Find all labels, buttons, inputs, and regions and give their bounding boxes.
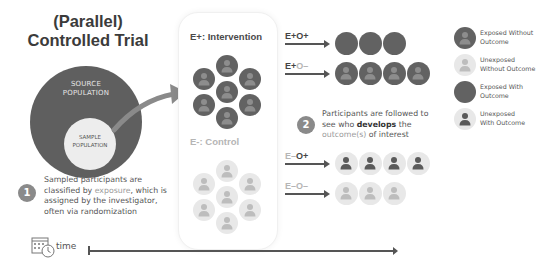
legend-label-0: Exposed WithoutOutcome [480, 29, 533, 46]
row-arrow-line [285, 163, 325, 165]
diagram-title: (Parallel) Controlled Trial [0, 12, 176, 50]
person-icon [198, 72, 210, 86]
participant-unexposed [216, 186, 238, 208]
arrowhead-icon [324, 160, 330, 168]
person-icon [244, 98, 256, 112]
timeline-arrowhead-icon [393, 247, 398, 255]
legend-line1: Exposed With [480, 83, 523, 92]
step2-outcome-highlight: outcome(s) [322, 130, 366, 139]
row-label-1: E+O– [285, 61, 308, 71]
title-line2: Controlled Trial [0, 31, 176, 50]
participant-exposed-with-outcome [383, 32, 406, 55]
person-icon [459, 112, 471, 126]
participant-unexposed-without-outcome [383, 182, 406, 205]
row-label-3: E–O– [285, 181, 308, 191]
timeline-line [89, 250, 394, 252]
exposure-code: E– [285, 181, 296, 191]
participant-unexposed [193, 173, 215, 195]
exposure-code: E– [285, 151, 296, 161]
participant-exposed-without-outcome [359, 62, 382, 85]
control-group-title: E-: Control [190, 136, 239, 147]
participant-unexposed-with-outcome [335, 152, 358, 175]
person-icon [340, 186, 352, 200]
outcome-code: O– [296, 181, 308, 191]
legend-swatch-3 [454, 108, 476, 130]
participant-unexposed [239, 199, 261, 221]
person-icon [221, 216, 233, 230]
row-label-0: E+O+ [285, 31, 309, 41]
person-icon [221, 190, 233, 204]
participant-exposed-without-outcome [407, 62, 430, 85]
participant-exposed-without-outcome [383, 62, 406, 85]
exposure-code: E+ [285, 61, 296, 71]
legend-line2: Outcome [480, 38, 533, 47]
person-icon [221, 164, 233, 178]
person-icon [198, 98, 210, 112]
control-prefix: E-: [190, 136, 203, 147]
legend-line2: Outcome [480, 92, 523, 101]
participant-unexposed [193, 199, 215, 221]
arrowhead-icon [324, 40, 330, 48]
legend-line1: Unexposed [480, 110, 525, 119]
participant-exposed [216, 81, 238, 103]
legend-line1: Exposed Without [480, 29, 533, 38]
step2-text-b: the [396, 120, 411, 129]
step2-text-c: of interest [366, 130, 408, 139]
sample-label-line2: POPULATION [64, 141, 116, 149]
exposure-code: E+ [285, 31, 296, 41]
step-2-badge: 2 [297, 116, 315, 134]
legend-label-3: UnexposedWith Outcome [480, 110, 525, 127]
legend-swatch-0 [454, 27, 476, 49]
person-icon [221, 111, 233, 125]
sample-label-line1: SAMPLE [64, 133, 116, 141]
person-icon [459, 31, 471, 45]
step-1-text: Sampled participants are classified by e… [44, 175, 170, 217]
legend-label-1: UnexposedWithout Outcome [480, 56, 535, 73]
person-icon [244, 72, 256, 86]
row-arrow-line [285, 193, 325, 195]
person-icon [388, 186, 400, 200]
participant-exposed [216, 55, 238, 77]
control-label: Control [203, 136, 239, 147]
outcome-code: O– [296, 61, 308, 71]
step1-exposure-highlight: exposure [95, 186, 131, 195]
participant-unexposed-with-outcome [407, 152, 430, 175]
legend-label-2: Exposed WithOutcome [480, 83, 523, 100]
step-2-text: Participants are followed to see who dev… [322, 109, 432, 141]
arrowhead-icon [324, 70, 330, 78]
participant-unexposed-with-outcome [359, 152, 382, 175]
sample-population-label: SAMPLE POPULATION [64, 133, 116, 149]
person-icon [412, 156, 424, 170]
step-1-badge: 1 [18, 184, 36, 202]
participant-exposed [216, 107, 238, 129]
participant-unexposed-with-outcome [383, 152, 406, 175]
participant-exposed-with-outcome [335, 32, 358, 55]
participant-exposed-with-outcome [359, 32, 382, 55]
person-icon [198, 203, 210, 217]
person-icon [364, 66, 376, 80]
arrowhead-icon [324, 190, 330, 198]
outcome-code: O+ [296, 151, 308, 161]
outcome-code: O+ [296, 31, 308, 41]
row-label-2: E–O+ [285, 151, 308, 161]
person-icon [340, 66, 352, 80]
participant-unexposed-without-outcome [335, 182, 358, 205]
step2-develops-bold: develops [357, 120, 397, 129]
participant-exposed-without-outcome [335, 62, 358, 85]
title-line1: (Parallel) [0, 12, 176, 31]
person-icon [412, 66, 424, 80]
time-label: time [56, 241, 76, 251]
person-icon [244, 177, 256, 191]
person-icon [340, 156, 352, 170]
row-arrow-line [285, 73, 325, 75]
person-icon [364, 186, 376, 200]
person-icon [244, 203, 256, 217]
legend-swatch-2 [454, 81, 476, 103]
participant-unexposed [239, 173, 261, 195]
person-icon [459, 58, 471, 72]
person-icon [221, 85, 233, 99]
participant-unexposed [216, 212, 238, 234]
participant-exposed [239, 68, 261, 90]
intervention-prefix: E+: [190, 31, 205, 42]
participant-unexposed [216, 160, 238, 182]
